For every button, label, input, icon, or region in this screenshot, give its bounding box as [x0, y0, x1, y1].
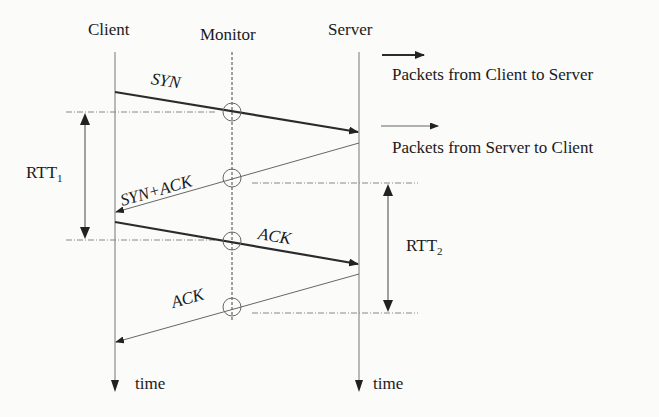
server-label: Server [328, 21, 372, 38]
diagram-canvas [0, 0, 659, 417]
rtt1-dimension [66, 112, 215, 240]
ack-arrow [115, 222, 358, 264]
client-label: Client [88, 21, 130, 38]
legend-client-to-server-label: Packets from Client to Server [392, 66, 593, 83]
server-time-label: time [373, 375, 403, 392]
syn-label: SYN [150, 70, 182, 91]
syn-ack-arrow [116, 143, 359, 212]
rtt1-label: RTT1 [26, 164, 63, 184]
server-lifeline [355, 52, 363, 392]
final-ack-arrow [116, 274, 359, 342]
rtt2-label: RTT2 [406, 237, 443, 257]
legend-server-to-client-label: Packets from Server to Client [392, 139, 593, 156]
client-time-label: time [135, 375, 165, 392]
rtt2-dimension [252, 183, 418, 313]
ack-label: ACK [257, 225, 292, 247]
monitor-label: Monitor [200, 26, 256, 43]
